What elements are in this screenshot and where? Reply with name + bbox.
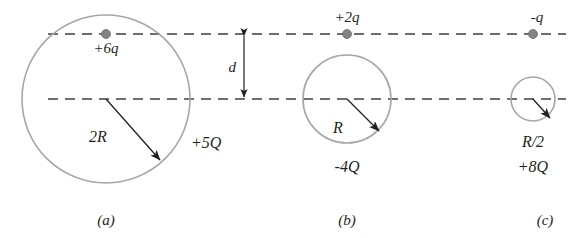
point-charge-label-b: +2q — [334, 9, 360, 25]
radius-arrow-a — [106, 99, 160, 160]
panel-caption-a: (a) — [97, 212, 115, 229]
sphere-radius-label-a: 2R — [89, 128, 107, 145]
panel-caption-c: (c) — [537, 212, 554, 229]
sphere-radius-label-b: R — [332, 119, 343, 136]
panel-caption-b: (b) — [338, 212, 356, 229]
point-charge-label-a: +6q — [93, 40, 119, 56]
figure-canvas: +6q 2R +5Q (a) d +2q R -4Q (b) -q R/2 — [0, 0, 575, 238]
sphere-charge-label-b: -4Q — [335, 158, 360, 175]
point-charge-dot-a — [102, 30, 111, 39]
sphere-charge-label-c: +8Q — [518, 158, 549, 175]
radius-arrow-c — [533, 99, 550, 118]
physics-figure: +6q 2R +5Q (a) d +2q R -4Q (b) -q R/2 — [0, 0, 575, 238]
gap-dimension: d — [229, 36, 245, 97]
panel-b: +2q R -4Q (b) — [303, 9, 391, 229]
point-charge-dot-b — [343, 30, 352, 39]
gap-label: d — [229, 59, 237, 75]
radius-arrow-b — [347, 99, 379, 131]
sphere-radius-label-c: R/2 — [521, 133, 544, 150]
panel-c: -q R/2 +8Q (c) — [511, 9, 555, 229]
panel-a: +6q 2R +5Q (a) — [22, 15, 222, 229]
sphere-charge-label-a: +5Q — [191, 134, 222, 151]
point-charge-label-c: -q — [531, 9, 544, 25]
point-charge-dot-c — [529, 30, 538, 39]
